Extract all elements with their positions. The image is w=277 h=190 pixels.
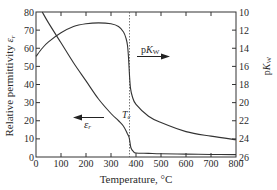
pkw-annotation: pKW bbox=[137, 44, 170, 60]
x-tick-label: 100 bbox=[54, 158, 69, 169]
y2-tick-label: 20 bbox=[239, 97, 249, 108]
y-tick-label: 40 bbox=[24, 79, 34, 90]
x-axis-tick-labels: 0100200300400500600700800 bbox=[34, 158, 244, 169]
x-axis-ticks bbox=[61, 12, 211, 157]
chart: 0100200300400500600700800 01020304050607… bbox=[0, 0, 277, 190]
y-tick-label: 20 bbox=[24, 115, 34, 126]
y-tick-label: 80 bbox=[24, 7, 34, 18]
x-tick-label: 0 bbox=[34, 158, 39, 169]
y2-tick-label: 14 bbox=[239, 43, 249, 54]
y2-axis-label: pKW bbox=[261, 56, 273, 75]
x-tick-label: 600 bbox=[179, 158, 194, 169]
y2-tick-label: 24 bbox=[239, 133, 249, 144]
y2-axis-ticks bbox=[232, 30, 236, 139]
pkw-series-line bbox=[36, 23, 236, 140]
y2-tick-label: 18 bbox=[239, 79, 249, 90]
y2-tick-label: 16 bbox=[239, 61, 249, 72]
x-tick-label: 200 bbox=[79, 158, 94, 169]
y2-tick-label: 22 bbox=[239, 115, 249, 126]
x-tick-label: 400 bbox=[129, 158, 144, 169]
x-tick-label: 500 bbox=[154, 158, 169, 169]
x-tick-label: 300 bbox=[104, 158, 119, 169]
svg-text:pKW: pKW bbox=[141, 44, 160, 56]
x-axis-label: Temperature, °C bbox=[100, 173, 173, 185]
y-axis-tick-labels: 01020304050607080 bbox=[24, 7, 34, 163]
er-series-line bbox=[42, 12, 236, 155]
x-tick-label: 700 bbox=[204, 158, 219, 169]
svg-text:εr: εr bbox=[84, 118, 91, 131]
y-tick-label: 70 bbox=[24, 25, 34, 36]
er-annotation: εr bbox=[73, 115, 104, 132]
y-tick-label: 0 bbox=[29, 152, 34, 163]
y2-axis-tick-labels: 101214161820222426 bbox=[239, 7, 249, 163]
y2-tick-label: 12 bbox=[239, 25, 249, 36]
y-axis-ticks bbox=[36, 30, 40, 139]
arrow-right-icon bbox=[161, 54, 170, 60]
y2-tick-label: 26 bbox=[239, 152, 249, 163]
y-tick-label: 50 bbox=[24, 61, 34, 72]
y-axis-label: Relative permittivity εr bbox=[3, 35, 17, 136]
y-tick-label: 30 bbox=[24, 97, 34, 108]
y2-tick-label: 10 bbox=[239, 7, 249, 18]
arrow-left-icon bbox=[73, 115, 82, 121]
tc-label: Tc bbox=[122, 109, 132, 121]
y-tick-label: 10 bbox=[24, 133, 34, 144]
y-tick-label: 60 bbox=[24, 43, 34, 54]
